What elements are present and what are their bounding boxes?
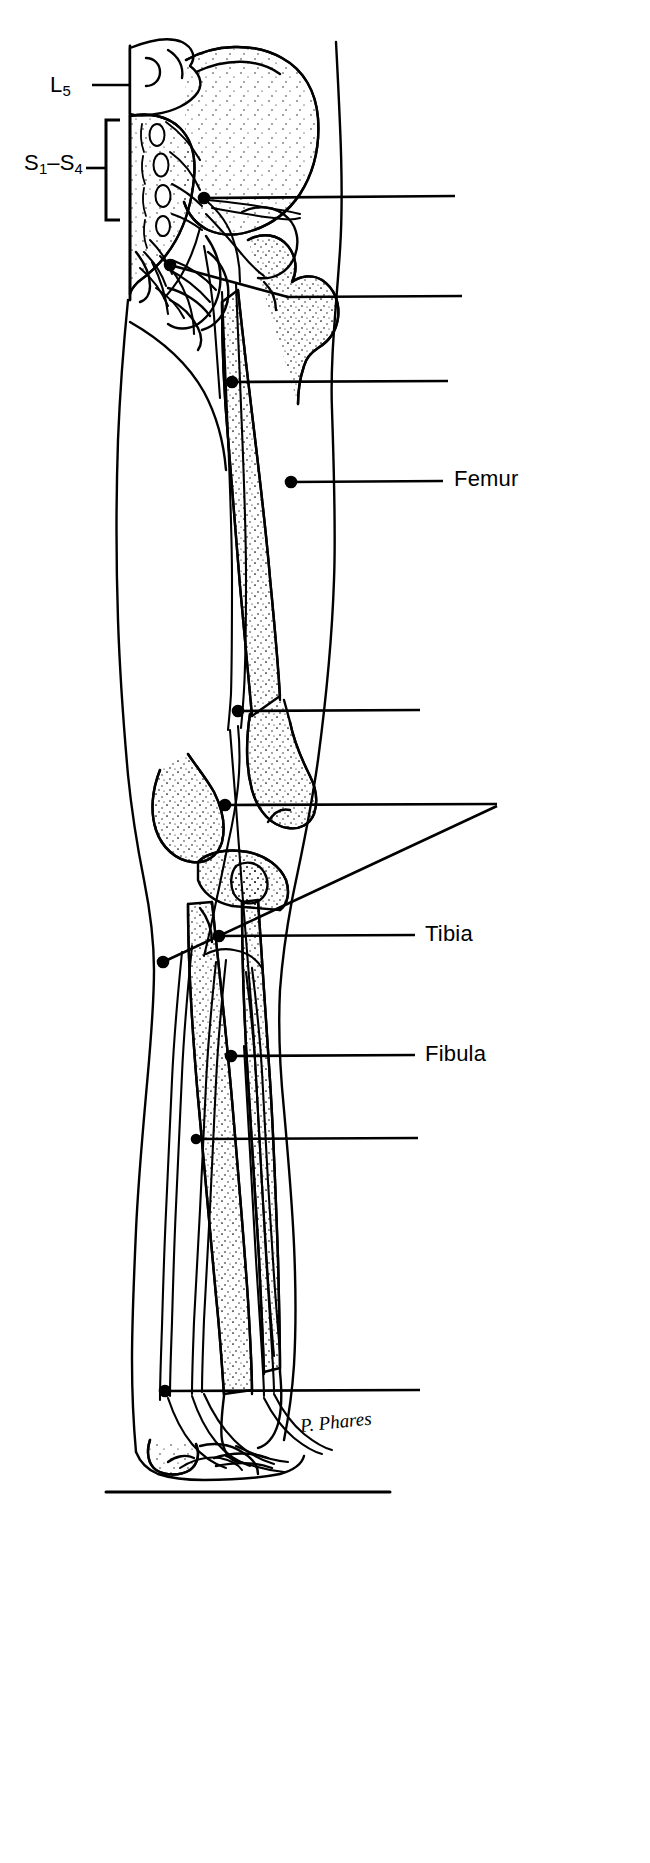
label-roots-dash: –	[47, 150, 59, 175]
leader-line-7	[196, 1138, 418, 1139]
sacral-root-bracket	[106, 120, 120, 220]
ischial-tuberosity	[170, 300, 201, 350]
label-fibula: Fibula	[425, 1043, 486, 1065]
leader-line-8	[165, 1390, 420, 1391]
leader-line-tibia	[219, 935, 415, 936]
thigh-medial-contour	[130, 322, 226, 470]
fibula-head	[231, 863, 267, 904]
label-sacral-roots: S1–S4	[24, 152, 83, 177]
medial-calf-nerve-a	[170, 946, 192, 1396]
label-s1-letter: S	[24, 150, 39, 175]
leader-line-3	[232, 381, 448, 382]
leader-line-fibula	[231, 1055, 415, 1056]
label-tibia: Tibia	[425, 923, 473, 945]
leader-line-2	[286, 296, 462, 297]
limb-outline-medial	[117, 300, 155, 1452]
label-l5-letter: L	[50, 72, 62, 97]
label-l5-number: 5	[62, 82, 70, 99]
leader-line-femur	[291, 481, 443, 482]
label-spinal-root-l5: L5	[50, 74, 71, 99]
label-femur: Femur	[454, 468, 519, 490]
leader-line-5	[225, 804, 497, 805]
femur-head-neck-trochanter	[248, 235, 338, 404]
leader-line-4	[238, 710, 420, 711]
label-s4-number: 4	[75, 160, 83, 177]
label-s1-number: 1	[39, 160, 47, 177]
label-s4-letter: S	[60, 150, 75, 175]
ilium-outline	[184, 47, 318, 235]
anatomy-figure-root: L5 S1–S4 Femur Tibia Fibula P. Phares	[0, 0, 650, 1863]
anatomy-line-drawing	[0, 0, 650, 1863]
